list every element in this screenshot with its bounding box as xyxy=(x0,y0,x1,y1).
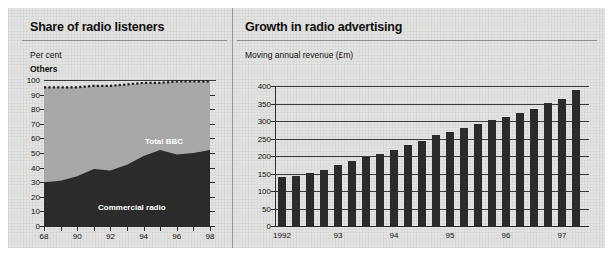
x-tick-label: 96 xyxy=(502,231,511,240)
gridline xyxy=(275,104,589,105)
x-tick-mark xyxy=(61,227,62,231)
x-tick-label: 68 xyxy=(40,232,49,241)
y-tick-label: 0 xyxy=(245,222,271,231)
bar xyxy=(572,90,581,226)
series-label-total-bbc: Total BBC xyxy=(145,137,183,146)
x-tick-mark xyxy=(210,227,211,231)
x-tick-mark xyxy=(177,227,178,231)
bar xyxy=(362,157,371,226)
bar-chart-growth: 0501001502002503003504001992939495969798 xyxy=(233,8,605,248)
x-tick-label: 92 xyxy=(106,232,115,241)
bar xyxy=(544,103,553,226)
bar xyxy=(446,132,455,226)
x-tick-mark xyxy=(193,227,194,231)
x-tick-label: 95 xyxy=(446,231,455,240)
y-tick-label: 300 xyxy=(245,117,271,126)
bar xyxy=(530,109,539,226)
bar xyxy=(404,145,413,226)
x-tick-mark xyxy=(160,227,161,231)
bar xyxy=(292,176,301,226)
x-tick-mark xyxy=(127,227,128,231)
y-tick-label: 200 xyxy=(245,152,271,161)
x-tick-mark xyxy=(94,227,95,231)
bar xyxy=(516,113,525,226)
bar xyxy=(558,99,567,226)
bar xyxy=(502,117,511,226)
area-series-group xyxy=(8,8,232,248)
bar xyxy=(488,120,497,226)
bar xyxy=(390,150,399,226)
panel-growth-in-radio-advertising: Growth in radio advertising Moving annua… xyxy=(233,8,605,248)
series-label-commercial-radio: Commercial radio xyxy=(98,203,166,212)
x-tick-label: 96 xyxy=(172,232,181,241)
x-axis-line xyxy=(275,226,589,227)
y-axis-line xyxy=(275,86,276,227)
x-tick-mark xyxy=(77,227,78,231)
x-tick-mark xyxy=(44,227,45,231)
bar xyxy=(320,170,329,226)
y-tick-label: 150 xyxy=(245,169,271,178)
y-tick-label: 400 xyxy=(245,82,271,91)
x-tick-label: 93 xyxy=(334,231,343,240)
y-tick-label: 100 xyxy=(245,187,271,196)
bar xyxy=(432,135,441,226)
x-tick-label: 90 xyxy=(73,232,82,241)
x-tick-mark xyxy=(144,227,145,231)
bar xyxy=(306,173,315,226)
gridline xyxy=(275,86,589,87)
bar xyxy=(418,141,427,226)
x-tick-label: 1992 xyxy=(273,231,291,240)
bar xyxy=(460,128,469,226)
panel-share-of-radio-listeners: Share of radio listeners Per cent Others… xyxy=(8,8,232,248)
bar xyxy=(334,165,343,226)
gridline xyxy=(275,121,589,122)
y-tick-label: 250 xyxy=(245,134,271,143)
area-chart-share: 0102030405060708090100Total BBCCommercia… xyxy=(8,8,232,248)
y-tick-label: 350 xyxy=(245,99,271,108)
x-tick-label: 98 xyxy=(206,232,215,241)
figure-root: Share of radio listeners Per cent Others… xyxy=(0,0,613,256)
bar xyxy=(278,177,287,226)
bar xyxy=(474,124,483,226)
bar xyxy=(376,154,385,226)
x-tick-label: 94 xyxy=(390,231,399,240)
y-tick-label: 50 xyxy=(245,204,271,213)
bar xyxy=(348,161,357,226)
x-tick-label: 97 xyxy=(558,231,567,240)
x-tick-label: 94 xyxy=(139,232,148,241)
x-tick-mark xyxy=(110,227,111,231)
